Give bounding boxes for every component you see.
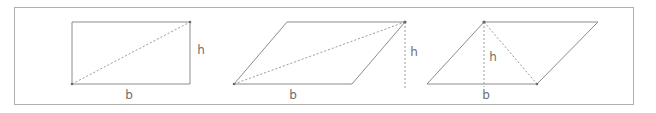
parallelogram-right-lean-height-label: h bbox=[410, 45, 418, 59]
parallelogram-obtuse-outline bbox=[427, 22, 598, 84]
rectangle-base-label: b bbox=[125, 88, 133, 102]
rectangle-vertex-bottom-left bbox=[71, 83, 74, 86]
parallelogram-obtuse-height-label: h bbox=[489, 50, 497, 64]
rectangle-diagonal bbox=[72, 22, 190, 84]
rectangle-vertex-top-right bbox=[189, 21, 192, 24]
parallelogram-right-lean-vertex-bottom-left bbox=[233, 83, 236, 86]
parallelogram-right-lean-diagonal bbox=[234, 22, 405, 84]
shape-parallelogram-right-lean: b h bbox=[233, 20, 418, 101]
shape-parallelogram-obtuse: h b bbox=[427, 20, 598, 101]
geometry-figure-canvas: b h b h h b bbox=[0, 0, 656, 113]
parallelogram-obtuse-base-label: b bbox=[482, 88, 490, 102]
parallelogram-right-lean-base-label: b bbox=[289, 88, 297, 102]
shape-rectangle: b h bbox=[71, 21, 205, 102]
parallelogram-obtuse-vertex-apex bbox=[482, 20, 485, 23]
parallelogram-right-lean-outline bbox=[234, 22, 405, 84]
parallelogram-right-lean-vertex-top-right bbox=[403, 20, 406, 23]
geometry-figure-svg: b h b h h b bbox=[0, 0, 656, 113]
rectangle-height-label: h bbox=[197, 43, 205, 57]
parallelogram-obtuse-vertex-bottom-right bbox=[536, 83, 539, 86]
